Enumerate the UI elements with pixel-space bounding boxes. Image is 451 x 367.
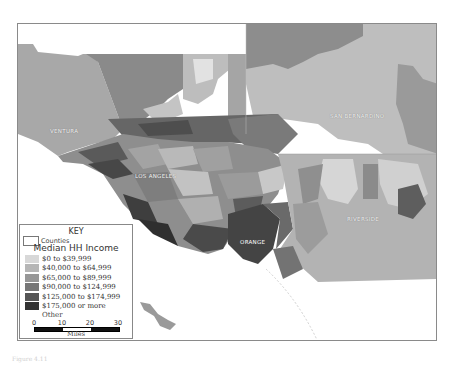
scale-tick: 20 (86, 319, 94, 327)
legend-item-label: $125,000 to $174,999 (42, 293, 120, 301)
legend-item: $175,000 or more (25, 302, 120, 312)
legend-item: $125,000 to $174,999 (25, 292, 120, 302)
legend-swatch (25, 264, 39, 272)
county-label-los-angeles: LOS ANGELES (135, 173, 176, 179)
county-label-san-bernardino: SAN BERNARDINO (330, 113, 385, 119)
county-label-riverside: RIVERSIDE (347, 216, 379, 222)
legend-item: $40,000 to $64,999 (25, 264, 120, 274)
legend-item-label: $90,000 to $124,999 (42, 283, 116, 291)
legend-swatch (25, 255, 39, 263)
legend-item-label: $65,000 to $89,999 (42, 274, 111, 282)
legend-other-label: Other (42, 311, 63, 319)
figure-caption: Figure 4.11 (12, 355, 47, 362)
legend-swatch (25, 283, 39, 291)
map-legend: KEY Counties Median HH Income $0 to $39,… (19, 224, 133, 339)
scale-tick: 0 (32, 319, 36, 327)
county-label-orange: ORANGE (240, 239, 265, 245)
legend-item-label: $0 to $39,999 (42, 255, 91, 263)
legend-item: $90,000 to $124,999 (25, 283, 120, 293)
scale-tick: 30 (114, 319, 122, 327)
scale-unit: Miles (20, 330, 132, 338)
legend-item: $0 to $39,999 (25, 254, 120, 264)
county-label-ventura: VENTURA (50, 128, 78, 134)
legend-item-label: $40,000 to $64,999 (42, 264, 111, 272)
legend-subtitle: Median HH Income (20, 243, 132, 253)
legend-items: $0 to $39,999 $40,000 to $64,999 $65,000… (25, 254, 120, 311)
legend-title: KEY (20, 227, 132, 236)
legend-swatch (25, 293, 39, 301)
scale-tick: 10 (58, 319, 66, 327)
legend-item-label: $175,000 or more (42, 302, 106, 310)
legend-swatch (25, 274, 39, 282)
legend-item: $65,000 to $89,999 (25, 273, 120, 283)
legend-swatch (25, 302, 39, 310)
